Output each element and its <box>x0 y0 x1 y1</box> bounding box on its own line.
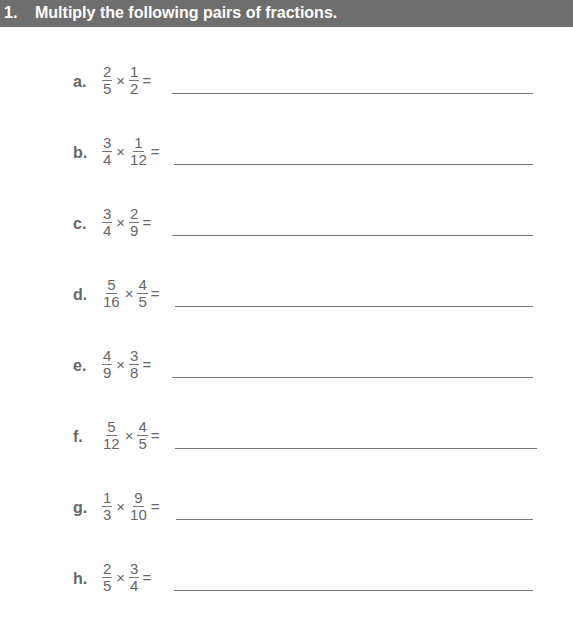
equals-sign: = <box>151 285 160 302</box>
answer-line[interactable] <box>176 519 533 520</box>
denominator: 10 <box>129 507 148 523</box>
denominator: 9 <box>129 223 139 239</box>
denominator: 4 <box>102 223 112 239</box>
fraction-1: 3 4 <box>102 206 112 239</box>
fraction-expression: 1 3 × 9 10 = <box>102 486 160 526</box>
fraction-2: 1 12 <box>129 135 148 168</box>
answer-line[interactable] <box>172 235 533 236</box>
problem-label: h. <box>73 570 87 588</box>
problem-label: c. <box>73 215 86 233</box>
numerator: 4 <box>137 277 147 294</box>
problem-g: g. 1 3 × 9 10 = <box>0 486 573 526</box>
denominator: 2 <box>129 81 139 97</box>
denominator: 9 <box>102 365 112 381</box>
equals-sign: = <box>151 498 160 515</box>
fraction-1: 2 5 <box>102 64 112 97</box>
numerator: 3 <box>129 561 139 578</box>
problem-d: d. 5 16 × 4 5 = <box>0 273 573 313</box>
problem-label: a. <box>73 73 86 91</box>
fraction-expression: 3 4 × 1 12 = <box>102 131 160 171</box>
numerator: 3 <box>129 348 139 365</box>
fraction-2: 4 5 <box>137 277 147 310</box>
problem-f: f. 5 12 × 4 5 = <box>0 415 573 455</box>
numerator: 1 <box>133 135 143 152</box>
fraction-2: 2 9 <box>129 206 139 239</box>
fraction-expression: 5 16 × 4 5 = <box>102 273 160 313</box>
fraction-2: 3 4 <box>129 561 139 594</box>
times-sign: × <box>116 569 125 586</box>
equals-sign: = <box>151 143 160 160</box>
problem-e: e. 4 9 × 3 8 = <box>0 344 573 384</box>
problem-b: b. 3 4 × 1 12 = <box>0 131 573 171</box>
denominator: 5 <box>137 436 147 452</box>
fraction-1: 5 12 <box>102 419 121 452</box>
numerator: 1 <box>129 64 139 81</box>
equals-sign: = <box>142 569 151 586</box>
numerator: 5 <box>106 277 116 294</box>
numerator: 9 <box>133 490 143 507</box>
times-sign: × <box>116 498 125 515</box>
problem-label: b. <box>73 144 87 162</box>
answer-line[interactable] <box>172 377 533 378</box>
equals-sign: = <box>142 356 151 373</box>
times-sign: × <box>125 427 134 444</box>
denominator: 5 <box>102 578 112 594</box>
problem-label: d. <box>73 286 87 304</box>
answer-line[interactable] <box>172 93 533 94</box>
numerator: 2 <box>102 561 112 578</box>
answer-line[interactable] <box>174 590 533 591</box>
equals-sign: = <box>142 214 151 231</box>
fraction-2: 9 10 <box>129 490 148 523</box>
denominator: 12 <box>102 436 121 452</box>
denominator: 5 <box>102 81 112 97</box>
numerator: 3 <box>102 135 112 152</box>
times-sign: × <box>125 285 134 302</box>
fraction-expression: 4 9 × 3 8 = <box>102 344 151 384</box>
denominator: 12 <box>129 152 148 168</box>
question-header: 1. Multiply the following pairs of fract… <box>0 0 573 27</box>
fraction-1: 3 4 <box>102 135 112 168</box>
numerator: 2 <box>102 64 112 81</box>
equals-sign: = <box>151 427 160 444</box>
fraction-1: 1 3 <box>102 490 112 523</box>
question-title: Multiply the following pairs of fraction… <box>35 4 337 22</box>
numerator: 1 <box>102 490 112 507</box>
fraction-2: 4 5 <box>137 419 147 452</box>
problem-h: h. 2 5 × 3 4 = <box>0 557 573 597</box>
denominator: 5 <box>137 294 147 310</box>
fraction-expression: 3 4 × 2 9 = <box>102 202 151 242</box>
numerator: 5 <box>106 419 116 436</box>
denominator: 3 <box>102 507 112 523</box>
numerator: 4 <box>137 419 147 436</box>
answer-line[interactable] <box>175 448 537 449</box>
times-sign: × <box>116 143 125 160</box>
times-sign: × <box>116 356 125 373</box>
numerator: 3 <box>102 206 112 223</box>
answer-line[interactable] <box>174 164 533 165</box>
denominator: 4 <box>102 152 112 168</box>
denominator: 8 <box>129 365 139 381</box>
problem-label: e. <box>73 357 86 375</box>
numerator: 4 <box>102 348 112 365</box>
problem-label: f. <box>73 428 83 446</box>
fraction-1: 2 5 <box>102 561 112 594</box>
fraction-expression: 5 12 × 4 5 = <box>102 415 160 455</box>
denominator: 16 <box>102 294 121 310</box>
fraction-1: 4 9 <box>102 348 112 381</box>
fraction-expression: 2 5 × 1 2 = <box>102 60 151 100</box>
times-sign: × <box>116 214 125 231</box>
times-sign: × <box>116 72 125 89</box>
answer-line[interactable] <box>175 306 533 307</box>
equals-sign: = <box>142 72 151 89</box>
fraction-expression: 2 5 × 3 4 = <box>102 557 151 597</box>
fraction-1: 5 16 <box>102 277 121 310</box>
problem-label: g. <box>73 499 87 517</box>
question-number: 1. <box>4 4 17 22</box>
fraction-2: 1 2 <box>129 64 139 97</box>
fraction-2: 3 8 <box>129 348 139 381</box>
problem-c: c. 3 4 × 2 9 = <box>0 202 573 242</box>
denominator: 4 <box>129 578 139 594</box>
problem-a: a. 2 5 × 1 2 = <box>0 60 573 100</box>
numerator: 2 <box>129 206 139 223</box>
